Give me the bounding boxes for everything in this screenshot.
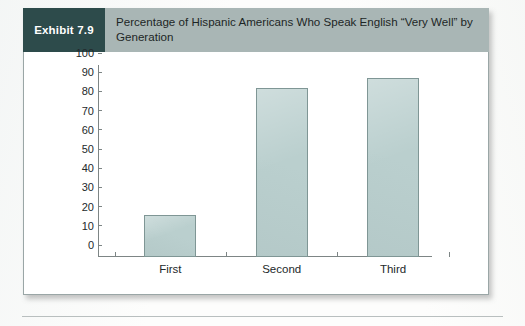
y-axis-tick: 80: [82, 85, 98, 97]
x-axis-label-third: Third: [380, 263, 406, 275]
y-axis-tick: 60: [82, 124, 98, 136]
exhibit-number-badge: Exhibit 7.9: [23, 8, 105, 52]
x-axis-tick-mark: [115, 252, 116, 257]
exhibit-header: Exhibit 7.9 Percentage of Hispanic Ameri…: [23, 8, 489, 52]
bar-texture: [257, 89, 307, 256]
y-axis-tick: 30: [82, 181, 98, 193]
x-axis-label-second: Second: [262, 263, 301, 275]
y-axis-tick-mark: [98, 53, 102, 54]
y-axis-tick-label: 50: [82, 143, 98, 155]
y-axis-tick: 70: [82, 105, 98, 117]
bar-second: [256, 88, 308, 257]
x-axis-tick-mark: [337, 252, 338, 257]
bar-texture: [368, 79, 418, 256]
y-axis-tick-label: 60: [82, 124, 98, 136]
x-axis-tick-mark: [226, 252, 227, 257]
y-axis-tick: 50: [82, 143, 98, 155]
bar-group: [98, 65, 432, 257]
page-rule: [22, 316, 503, 317]
exhibit-title: Percentage of Hispanic Americans Who Spe…: [105, 8, 489, 52]
y-axis-tick-label: 90: [82, 66, 98, 78]
y-axis-tick-label: 20: [82, 201, 98, 213]
y-axis-tick-label: 30: [82, 181, 98, 193]
y-axis-tick: 20: [82, 201, 98, 213]
plot-area: 0102030405060708090100 FirstSecondThird: [98, 65, 432, 257]
y-axis-tick-label: 70: [82, 105, 98, 117]
y-axis-tick-label: 10: [82, 220, 98, 232]
y-axis-tick: 40: [82, 162, 98, 174]
x-axis-label-first: First: [159, 263, 181, 275]
x-axis-tick-mark: [449, 252, 450, 257]
bar-texture: [145, 216, 195, 256]
bar-first: [144, 215, 196, 257]
bar-third: [367, 78, 419, 257]
y-axis-tick: 10: [82, 220, 98, 232]
y-axis-tick-label: 0: [88, 239, 98, 251]
y-axis-tick: 0: [88, 239, 98, 251]
y-axis-tick-label: 100: [76, 47, 98, 59]
y-axis-tick-label: 40: [82, 162, 98, 174]
exhibit-card: Exhibit 7.9 Percentage of Hispanic Ameri…: [23, 8, 489, 295]
y-axis-tick: 100: [76, 47, 98, 59]
chart-panel: 0102030405060708090100 FirstSecondThird: [23, 52, 489, 295]
y-axis-tick: 90: [82, 66, 98, 78]
y-axis-tick-label: 80: [82, 85, 98, 97]
